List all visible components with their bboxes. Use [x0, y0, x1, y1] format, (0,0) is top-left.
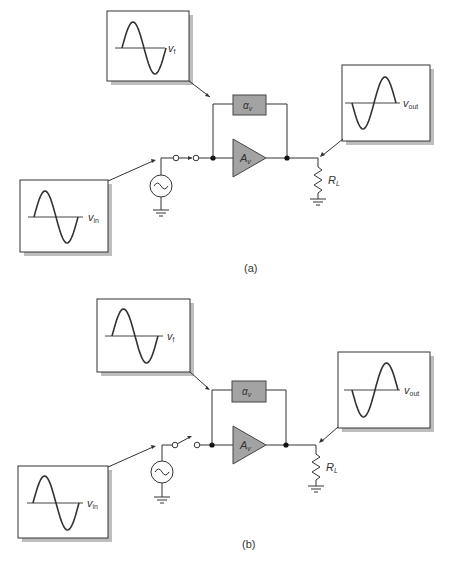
switch-terminal	[193, 155, 199, 161]
panel-b: vf vout vin	[18, 299, 434, 550]
svg-text:RL: RL	[326, 461, 338, 474]
switch-terminal	[172, 442, 178, 448]
vin-waveform-box: vin	[18, 466, 112, 542]
vin-waveform-box: vin	[20, 180, 112, 256]
vout-waveform-box: vout	[342, 65, 434, 145]
vout-waveform-box: vout	[338, 352, 434, 432]
panel-a: vf vout vin	[20, 11, 434, 274]
junction-dot	[284, 155, 289, 160]
feedback-amplifier-figure: vf vout vin	[0, 0, 451, 576]
caption-b: (b)	[242, 538, 255, 550]
caption-a: (a)	[244, 262, 257, 274]
switch-terminal	[194, 442, 200, 448]
junction-dot	[283, 442, 288, 447]
load-resistor	[314, 167, 322, 193]
vf-waveform-box: vf	[97, 299, 194, 376]
vf-waveform-box: vf	[107, 11, 193, 85]
switch-terminal	[173, 155, 179, 161]
svg-text:RL: RL	[328, 174, 340, 187]
load-resistor	[312, 454, 320, 480]
